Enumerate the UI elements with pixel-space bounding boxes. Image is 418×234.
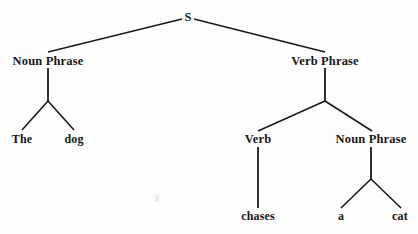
tree-node-a: a — [338, 210, 344, 222]
tree-node-np2: Noun Phrase — [336, 133, 407, 146]
tree-edge-np2-a — [341, 179, 371, 208]
tree-edge-s-vp — [194, 19, 325, 52]
tree-edge-np1-the — [22, 101, 48, 130]
tree-node-s: S — [184, 11, 191, 24]
tree-node-the: The — [12, 133, 32, 145]
tree-node-cat: cat — [392, 210, 408, 222]
scan-artifact-speck-1 — [155, 195, 159, 202]
tree-node-verb: Verb — [245, 133, 272, 146]
tree-node-vp: Verb Phrase — [291, 55, 359, 68]
tree-edge-vp-np2 — [325, 101, 372, 131]
tree-edge-np1-dog — [48, 101, 74, 130]
tree-edge-np2-cat — [371, 179, 401, 208]
tree-node-dog: dog — [64, 133, 83, 145]
tree-edge-s-np1 — [48, 19, 182, 52]
syntax-tree-figure: SNoun PhraseVerb PhraseThedogVerbNoun Ph… — [0, 0, 418, 234]
tree-node-np1: Noun Phrase — [13, 55, 84, 68]
tree-edge-vp-verb — [258, 101, 325, 131]
tree-edges-layer — [0, 0, 418, 234]
tree-node-chases: chases — [241, 210, 275, 222]
